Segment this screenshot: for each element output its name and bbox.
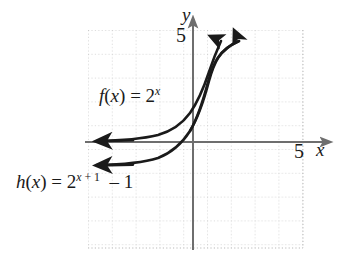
h-constant: 1	[124, 171, 134, 192]
h-name: h	[16, 171, 26, 192]
function-f-label: f(x) = 2x	[99, 86, 160, 105]
h-exponent: x + 1	[76, 171, 100, 184]
function-h-label: h(x) = 2x + 1 – 1	[16, 172, 133, 191]
h-arg: x	[32, 171, 40, 192]
exponential-functions-figure: y x 5 5 f(x) = 2x h(x) = 2x + 1 – 1	[0, 0, 341, 260]
x-axis-label: x	[316, 140, 324, 159]
h-base: 2	[67, 171, 77, 192]
f-exponent: x	[155, 85, 160, 98]
y-axis-tick-5: 5	[176, 25, 186, 45]
x-axis-tick-5: 5	[294, 141, 304, 161]
f-arg: x	[111, 85, 119, 106]
y-axis-label: y	[182, 5, 190, 24]
h-minus-sign: –	[109, 171, 119, 192]
f-base: 2	[146, 85, 156, 106]
h-equals-sign: =	[51, 171, 62, 192]
graph-canvas	[0, 0, 341, 260]
f-equals-sign: =	[130, 85, 141, 106]
